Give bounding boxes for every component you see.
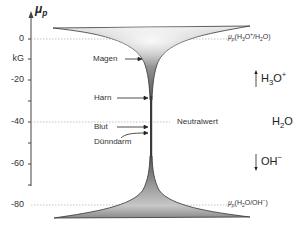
label-oh: OH− [261,155,282,167]
label-blut: Blut [94,122,108,131]
annotation-arrows [117,57,148,138]
tick-minus-80: -80 [0,199,24,209]
tick-minus-40: -40 [0,116,24,126]
funnel-neck [150,96,152,160]
tick-minus-20: -20 [0,74,24,84]
funnel-bottom [54,156,250,218]
axis-unit: kG [0,53,24,63]
label-ref-top: μp(H3O+/H2O) [228,33,271,40]
label-magen: Magen [93,54,117,63]
label-harn: Harn [94,93,111,102]
tick-0: 0 [0,33,24,43]
label-h2o: H2O [272,115,293,127]
label-neutralwert: Neutralwert [177,117,218,126]
label-ref-bottom: μp(H2O/OH−) [228,199,268,206]
h3o-up-arrow [254,70,257,87]
tick-minus-60: -60 [0,158,24,168]
label-duenndarm: Dünndarm [94,137,131,146]
y-axis [28,11,34,186]
oh-down-arrow [254,154,257,171]
axis-title: μp [35,2,47,16]
label-h3o: H3O+ [261,72,286,84]
funnel-top [53,26,250,100]
